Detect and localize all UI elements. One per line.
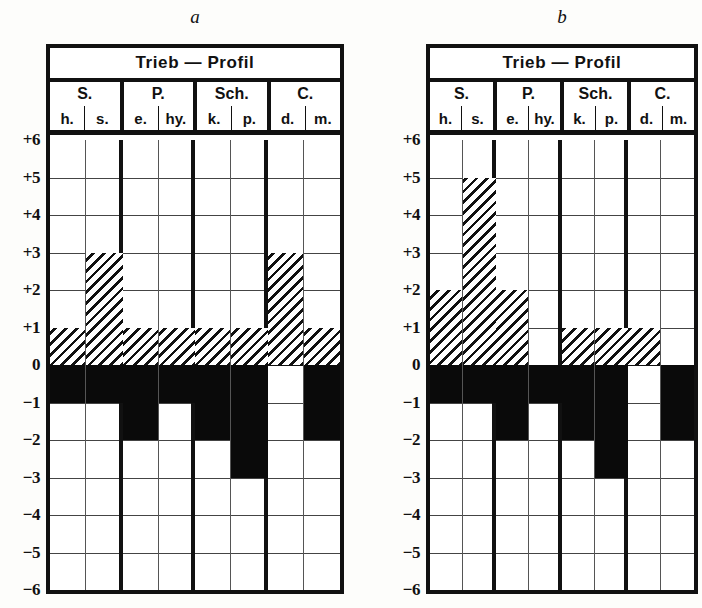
negative-bar-p-b — [595, 365, 628, 478]
y-axis-label: +2 — [374, 280, 420, 300]
y-axis-label: +4 — [374, 205, 420, 225]
vector-header-c-b: C.d.m. — [631, 82, 694, 130]
positive-bar-h-b — [430, 290, 462, 365]
vector-header-sch-b: Sch.k.p. — [564, 82, 631, 130]
factor-label-row: h.s. — [430, 106, 493, 130]
bar-column-hy-b — [529, 140, 562, 590]
vector-name-label: C. — [631, 82, 694, 106]
negative-bar-e-b — [496, 365, 528, 440]
bar-column-h-b — [430, 140, 463, 590]
bar-column-m-b — [661, 140, 694, 590]
vector-header-p-b: P.e.hy. — [497, 82, 564, 130]
positive-bar-e-b — [496, 290, 528, 365]
bar-column-e-b — [496, 140, 529, 590]
plot-area-b — [430, 140, 694, 590]
negative-bar-k-b — [562, 365, 594, 440]
factor-label-p: p. — [596, 106, 627, 130]
y-axis-label: +6 — [374, 130, 420, 150]
factor-label-m: m. — [663, 106, 694, 130]
profile-panel-b: b Trieb — ProfilS.h.s.P.e.hy.Sch.k.p.C.d… — [0, 0, 702, 608]
negative-bar-hy-b — [529, 365, 562, 403]
chart-frame-b: Trieb — ProfilS.h.s.P.e.hy.Sch.k.p.C.d.m… — [426, 44, 698, 594]
plot-vector-sch — [562, 140, 628, 590]
y-axis-label: 0 — [374, 355, 420, 375]
vector-name-label: Sch. — [564, 82, 627, 106]
vector-name-label: S. — [430, 82, 493, 106]
y-axis-label: +1 — [374, 318, 420, 338]
bar-column-d-b — [628, 140, 661, 590]
y-axis-label: +3 — [374, 243, 420, 263]
positive-bar-s-b — [463, 178, 496, 366]
y-axis-label: −2 — [374, 430, 420, 450]
panel-label-b: b — [426, 6, 698, 28]
factor-label-d: d. — [631, 106, 663, 130]
factor-label-hy: hy. — [529, 106, 560, 130]
y-axis-label: −3 — [374, 468, 420, 488]
y-axis-label: −4 — [374, 505, 420, 525]
positive-bar-p-b — [595, 328, 628, 366]
negative-bar-m-b — [661, 365, 694, 440]
bar-column-k-b — [562, 140, 595, 590]
factor-label-row: e.hy. — [497, 106, 560, 130]
y-axis-label: −1 — [374, 393, 420, 413]
factor-label-row: k.p. — [564, 106, 627, 130]
positive-bar-d-b — [628, 328, 660, 366]
plot-vector-p — [496, 140, 562, 590]
negative-bar-h-b — [430, 365, 462, 403]
plot-vector-c — [628, 140, 694, 590]
plot-vector-s — [430, 140, 496, 590]
vector-header-s-b: S.h.s. — [430, 82, 497, 130]
chart-title-b: Trieb — Profil — [430, 48, 694, 82]
bar-column-s-b — [463, 140, 496, 590]
y-axis-label: −6 — [374, 580, 420, 600]
factor-label-h: h. — [430, 106, 462, 130]
factor-label-s: s. — [462, 106, 493, 130]
positive-bar-k-b — [562, 328, 594, 366]
factor-label-e: e. — [497, 106, 529, 130]
negative-bar-s-b — [463, 365, 496, 403]
factor-label-k: k. — [564, 106, 596, 130]
factor-header-b: S.h.s.P.e.hy.Sch.k.p.C.d.m. — [430, 82, 694, 135]
y-axis-label: +5 — [374, 168, 420, 188]
y-axis-label: −5 — [374, 543, 420, 563]
factor-label-row: d.m. — [631, 106, 694, 130]
vector-name-label: P. — [497, 82, 560, 106]
bar-column-p-b — [595, 140, 628, 590]
